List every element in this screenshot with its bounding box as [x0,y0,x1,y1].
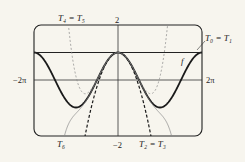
f-label: f [181,57,184,66]
t6-label: T₆ [57,140,65,149]
t4-t5-label: T₄ = T₅ [58,14,85,23]
t0-t1-label: T₀ = T₁ [205,34,232,43]
t2-t3-label: T₂ = T₃ [139,140,166,149]
y-max-tick: 2 [115,16,119,25]
y-min-tick: −2 [113,141,122,150]
x-max-tick: 2π [206,76,215,85]
t0-leader-line [197,41,205,50]
x-min-tick: −2π [13,76,26,85]
